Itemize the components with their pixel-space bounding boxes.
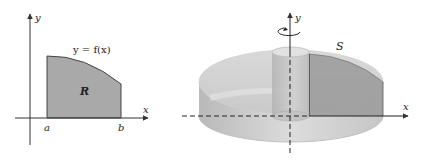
region-label: R (79, 85, 89, 98)
rotation-arrow-icon (278, 27, 300, 36)
tick-a-label: a (44, 122, 50, 133)
cross-section-s (309, 54, 383, 116)
curve-label: y = f(x) (72, 44, 111, 55)
left-x-axis-label: x (143, 104, 149, 115)
right-x-axis-label: x (403, 101, 409, 112)
tick-b-label: b (118, 122, 124, 133)
left-y-axis-label: y (34, 12, 41, 23)
right-graph: y x S (182, 12, 409, 156)
right-y-axis-label: y (294, 12, 301, 23)
left-graph: y x y = f(x) R a b (15, 12, 149, 145)
figure-canvas: y x y = f(x) R a b (0, 0, 423, 162)
solid-label: S (336, 40, 344, 53)
